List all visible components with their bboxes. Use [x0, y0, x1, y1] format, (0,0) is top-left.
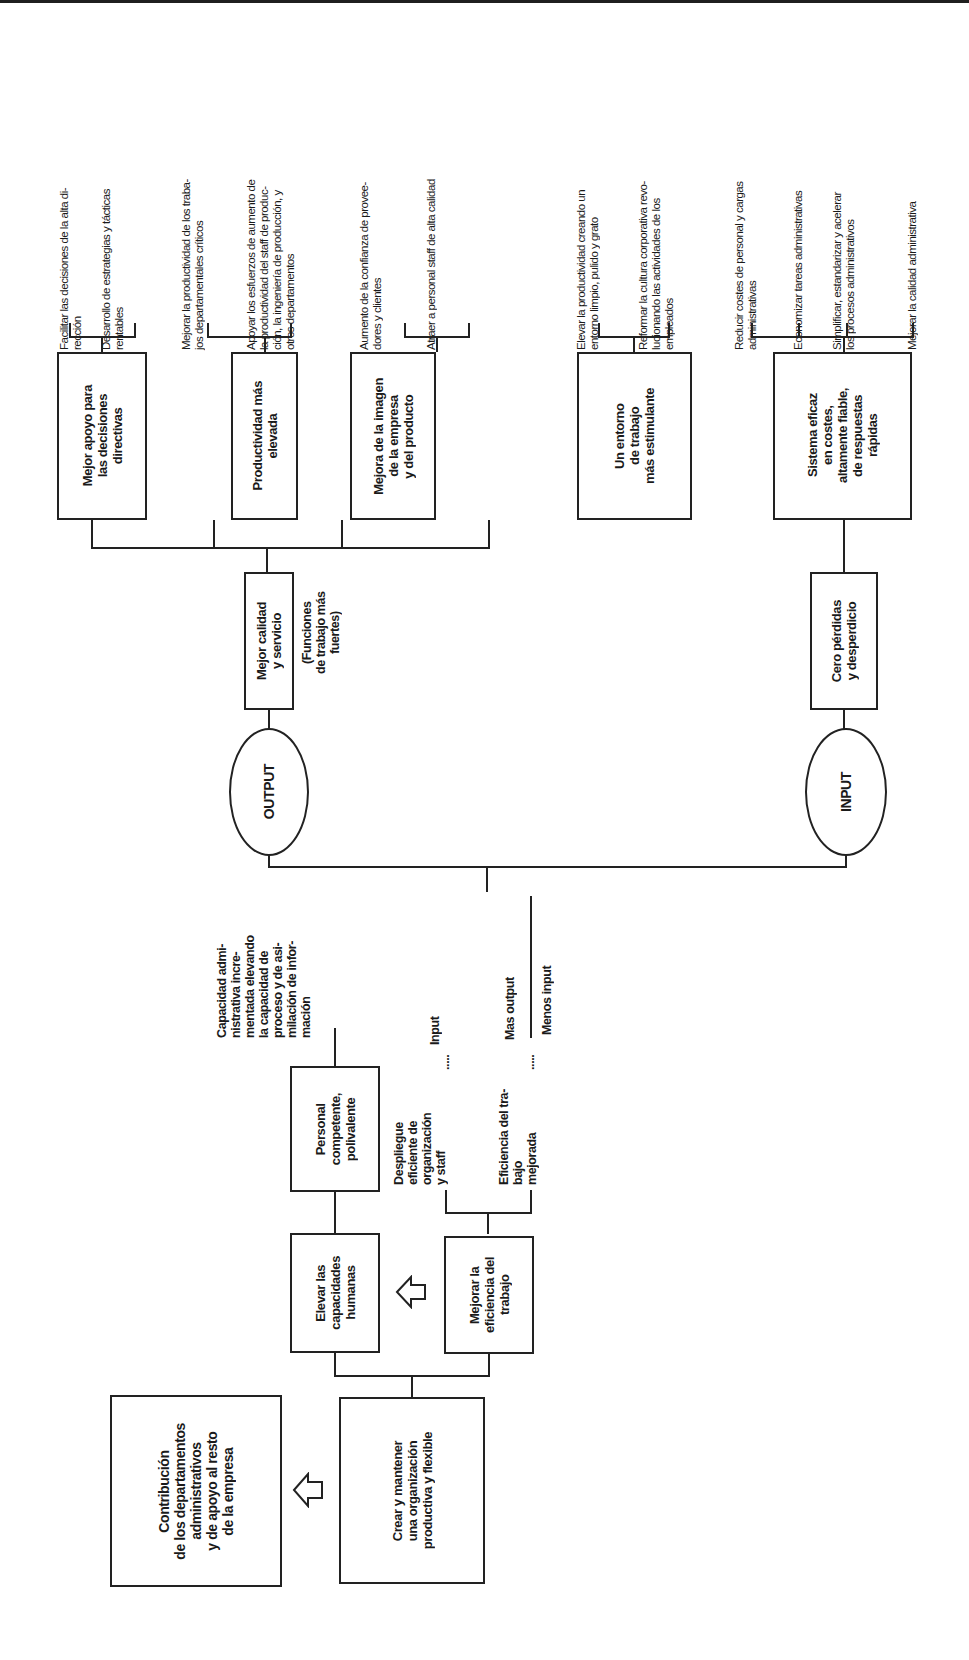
bracket-stem — [101, 336, 103, 352]
node-entorno-trabajo: Un entorno de trabajo más estimulante — [577, 352, 692, 520]
connector — [843, 710, 845, 730]
bracket-stem — [436, 336, 438, 352]
output-bus — [91, 547, 490, 549]
connector — [341, 520, 343, 549]
node-label: Mejorar la eficiencia del trabajo — [467, 1257, 512, 1333]
connector — [486, 866, 488, 892]
node-contribucion-goal: Contribución de los departamentos admini… — [110, 1395, 282, 1587]
leaf-simplificar-procesos: Simplificar, estandarizar y acelerar los… — [831, 100, 857, 350]
ratio-divider — [530, 896, 532, 1038]
bracket-stem — [264, 336, 266, 352]
leaf-elevar-productividad-entorno: Elevar la productividad creando un entor… — [575, 95, 601, 350]
leaf-mejorar-productividad-trabajos: Mejorar la productividad de los traba- j… — [180, 95, 206, 350]
node-mejor-apoyo: Mejor apoyo para las decisiones directiv… — [57, 352, 147, 520]
leaf-economizar-tareas: Economizar tareas administrativas — [792, 95, 805, 350]
input-ellipse: INPUT — [805, 728, 887, 856]
connector — [91, 520, 93, 549]
leaf-reducir-costes: Reducir costes de personal y cargas admi… — [733, 80, 759, 350]
bracket-tick — [846, 323, 848, 338]
node-label: Sistema eficaz en costes, altamente fiab… — [805, 388, 880, 483]
output-ellipse: OUTPUT — [229, 728, 309, 856]
node-cero-perdidas: Cero pérdidas y desperdicio — [810, 572, 878, 710]
node-label: Crear y mantener una organización produc… — [390, 1432, 435, 1549]
bracket-tick — [668, 323, 670, 338]
ratio-numerator: Mas output — [503, 920, 517, 1040]
bracket-tick — [134, 323, 136, 338]
connector — [334, 1028, 336, 1066]
node-label: Un entorno de trabajo más estimulante — [612, 388, 657, 484]
bracket-tick — [404, 323, 406, 338]
connector — [843, 520, 845, 572]
capacity-text: Capacidad admi- nistrativa incre- mentad… — [215, 888, 313, 1038]
bracket-tick — [69, 323, 71, 338]
ratio-input-label: Input — [428, 985, 442, 1045]
ratio-denominator: Menos input — [540, 915, 554, 1035]
bracket-tick — [798, 323, 800, 338]
bracket-line — [751, 336, 914, 338]
bracket-stem — [843, 336, 845, 352]
node-label: Elevar las capacidades humanas — [313, 1256, 358, 1330]
bracket-stem — [487, 1212, 489, 1234]
leaf-atraer-personal: Atraer a personal staff de alta calidad — [425, 75, 438, 350]
node-label: Mejora de la imagen de la empresa y del … — [371, 378, 416, 495]
input-label: INPUT — [839, 772, 854, 812]
node-label: Mejor calidad y servicio — [254, 602, 284, 680]
node-label: Mejor apoyo para las decisiones directiv… — [80, 385, 125, 486]
connector — [266, 547, 268, 573]
node-productividad: Productividad más elevada — [231, 352, 298, 520]
node-label: Contribución de los departamentos admini… — [156, 1423, 236, 1560]
bracket-tick — [751, 323, 753, 338]
bracket-tick — [598, 323, 600, 338]
node-personal-competente: Personal competente, polivalente — [290, 1066, 380, 1192]
bracket-tick — [290, 323, 292, 338]
node-label: Cero pérdidas y desperdicio — [829, 600, 859, 682]
node-mejora-imagen: Mejora de la imagen de la empresa y del … — [350, 352, 436, 520]
leaf-mejorar-calidad-admin: Mejorar la calidad administrativa — [906, 112, 919, 350]
bracket-line — [207, 336, 292, 338]
bracket-tick — [530, 1190, 532, 1214]
efficiency-child-eficiencia: Eficiencia del tra- bajo mejorada — [497, 1065, 539, 1185]
leaf-apoyar-esfuerzos: Apoyar los esfuerzos de aumento de la pr… — [245, 85, 297, 350]
connector — [488, 520, 490, 549]
connector — [411, 1375, 413, 1398]
arrow-left-icon — [395, 1275, 427, 1309]
connector — [213, 520, 215, 549]
connector — [488, 1354, 490, 1377]
node-sistema-eficaz: Sistema eficaz en costes, altamente fiab… — [773, 352, 912, 520]
connector — [334, 1192, 336, 1234]
connector — [268, 710, 270, 730]
bracket-tick — [912, 323, 914, 338]
output-label: OUTPUT — [262, 764, 277, 819]
leaf-facilitar-decisiones: Facilitar las decisiones de la alta di- … — [58, 105, 84, 350]
node-crear-organizacion: Crear y mantener una organización produc… — [339, 1397, 485, 1584]
bracket-tick — [468, 323, 470, 338]
leaf-desarrollo-estrategias: Desarrollo de estrategias y tácticas ren… — [100, 95, 126, 350]
node-mejor-calidad: Mejor calidad y servicio — [244, 572, 294, 710]
bracket-tick — [207, 323, 209, 338]
node-mejorar-eficiencia: Mejorar la eficiencia del trabajo — [444, 1236, 534, 1354]
leaf-aumento-confianza: Aumento de la confianza de provee- dores… — [358, 95, 384, 350]
efficiency-child-despliegue: Despliegue eficiente de organización y s… — [392, 1065, 448, 1185]
node-elevar-capacidades: Elevar las capacidades humanas — [290, 1233, 380, 1353]
connector — [334, 1353, 336, 1377]
page-top-border — [0, 0, 969, 3]
arrow-left-icon — [292, 1472, 324, 1508]
node-label: Productividad más elevada — [250, 381, 280, 491]
bracket-tick — [445, 1190, 447, 1214]
io-bus — [268, 866, 847, 868]
bracket-stem — [633, 336, 635, 352]
leaf-reformar-cultura: Reformar la cultura corporativa revo- lu… — [637, 95, 676, 350]
node-label: Personal competente, polivalente — [313, 1093, 358, 1165]
output-note: (Funciones de trabajo más fuertes) — [300, 578, 342, 688]
